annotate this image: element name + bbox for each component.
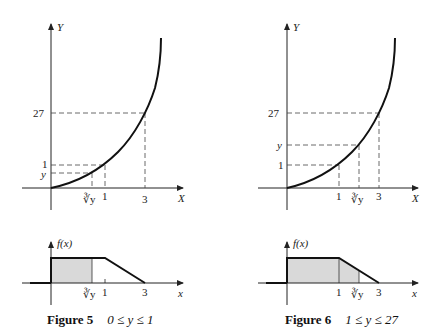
y-axis-label: f(x) [57, 237, 73, 250]
figure6-label: Figure 6 [285, 312, 331, 327]
shaded-region [51, 258, 92, 283]
figure5-top-plot: Y X 27 1 y ∛y 1 3 [22, 21, 186, 210]
y-tick-27: 27 [268, 107, 280, 119]
x-tick-1: 1 [336, 286, 342, 298]
x-tick-1: 1 [336, 190, 342, 202]
y-tick-1: 1 [278, 159, 284, 171]
x-axis-label: x [411, 287, 417, 299]
y-axis-label: f(x) [293, 237, 309, 250]
x-tick-3: 3 [142, 286, 148, 298]
x-tick-cuberoot-y: ∛y [351, 287, 364, 300]
guide-lines [287, 113, 379, 188]
x-tick-3: 3 [376, 286, 382, 298]
guide-lines [51, 113, 145, 188]
figure6-caption: Figure 61 ≤ y ≤ 27 [285, 312, 398, 328]
x-tick-1: 1 [102, 286, 108, 298]
shaded-region [287, 258, 359, 283]
figure6-top-plot: Y X 27 y 1 1 ∛y 3 [258, 21, 420, 210]
y-axis-label: Y [57, 21, 65, 33]
x-tick-1: 1 [102, 190, 108, 202]
figure6-condition: 1 ≤ y ≤ 27 [345, 312, 398, 327]
x-tick-cuberoot-y: ∛y [351, 192, 364, 205]
x-axis-label: X [411, 192, 420, 204]
x-tick-3: 3 [142, 193, 148, 205]
y-axis-label: Y [293, 21, 301, 33]
x-tick-3: 3 [376, 190, 382, 202]
y-tick-y: y [276, 139, 282, 151]
x-axis-label: X [177, 192, 186, 204]
figure5-label: Figure 5 [47, 312, 93, 327]
x-axis-label: x [177, 287, 183, 299]
y-tick-y: y [40, 168, 46, 180]
figure5-caption: Figure 50 ≤ y ≤ 1 [47, 312, 153, 328]
figure-canvas: Y X 27 1 y ∛y 1 3 Y X 27 y 1 1 ∛y 3 [0, 0, 443, 334]
figure6-density-plot: f(x) x 1 ∛y 3 [258, 237, 418, 305]
figure5-density-plot: f(x) x ∛y 1 3 [22, 237, 183, 305]
x-tick-cuberoot-y: ∛y [83, 192, 96, 205]
figure5-condition: 0 ≤ y ≤ 1 [107, 312, 153, 327]
x-tick-cuberoot-y: ∛y [83, 287, 96, 300]
y-tick-27: 27 [33, 107, 45, 119]
